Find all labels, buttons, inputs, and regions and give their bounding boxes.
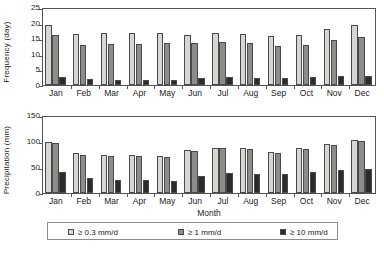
frequency-bar [87,79,93,85]
frequency-x-tick-label: Oct [300,88,313,98]
precipitation-y-tick-mark [39,169,43,170]
precipitation-bar [59,172,65,193]
frequency-bar [80,45,86,85]
frequency-bar [101,33,107,85]
precipitation-bar [108,156,114,193]
legend-item-label: ≥ 1 mm/d [188,228,221,237]
precipitation-bar [310,172,316,193]
frequency-bars [43,9,375,85]
frequency-y-tick-mark [39,86,43,87]
frequency-x-tick-label: Mar [104,88,119,98]
frequency-bar [164,43,170,85]
frequency-bar [115,80,121,85]
precipitation-bar [212,148,218,193]
frequency-bar [108,44,114,85]
precipitation-x-tick-label: Sep [271,196,286,206]
frequency-bar [351,25,357,85]
precipitation-y-tick-mark [39,117,43,118]
frequency-bar-group [321,9,349,85]
frequency-bar [324,29,330,85]
frequency-bar [282,78,288,85]
precipitation-bar [351,140,357,193]
precipitation-y-tick: 50 [31,164,40,172]
legend-swatch-icon [178,229,184,235]
precipitation-bar [282,174,288,193]
precipitation-bar-group [99,117,127,193]
precipitation-bar-group [182,117,210,193]
precipitation-y-tick-mark [39,194,43,195]
frequency-bar-group [182,9,210,85]
frequency-bar-group [238,9,266,85]
frequency-bar-group [294,9,322,85]
precipitation-x-tick-label: Feb [76,196,91,206]
frequency-bar [247,43,253,85]
frequency-bar-group [266,9,294,85]
frequency-bar [275,46,281,85]
precipitation-bar-group [71,117,99,193]
precipitation-bar [338,170,344,193]
frequency-y-tick: 15 [31,35,40,43]
precipitation-x-tick-label: Aug [243,196,258,206]
frequency-y-tick: 25 [31,4,40,12]
precipitation-bar-group [294,117,322,193]
frequency-bar-group [127,9,155,85]
frequency-bar [358,37,364,85]
precipitation-bar [101,155,107,193]
precipitation-bar [164,157,170,193]
precipitation-bar [45,142,51,193]
frequency-bar [240,34,246,85]
precipitation-bar [171,181,177,193]
precipitation-bar [331,145,337,193]
frequency-bar [171,80,177,85]
frequency-bar [129,33,135,85]
precipitation-bar [254,174,260,193]
precipitation-plot-area [42,116,376,194]
frequency-y-tick-mark [39,9,43,10]
precipitation-bars [43,117,375,193]
precipitation-y-tick-labels: 050100150 [14,116,40,194]
precipitation-x-tick-label: Jul [217,196,228,206]
precipitation-bar [184,150,190,193]
frequency-bar [338,76,344,85]
precipitation-x-tick-label: Nov [327,196,342,206]
frequency-bar-group [99,9,127,85]
frequency-bar [331,40,337,85]
precipitation-x-tick-label: Jun [188,196,202,206]
chart-legend: ≥ 0.3 mm/d≥ 1 mm/d≥ 10 mm/d [47,222,338,240]
frequency-bar [254,78,260,85]
frequency-bar [303,45,309,85]
precipitation-bar-group [349,117,377,193]
frequency-bar [191,43,197,85]
frequency-bar [296,35,302,85]
legend-item-label: ≥ 10 mm/d [290,228,328,237]
precipitation-y-tick-mark [39,143,43,144]
precipitation-bar [198,176,204,193]
precipitation-bar [219,148,225,193]
frequency-x-tick-label: Feb [76,88,91,98]
precipitation-bar-group [238,117,266,193]
frequency-y-tick: 10 [31,51,40,59]
frequency-y-tick: 5 [36,66,40,74]
precipitation-bar [115,180,121,193]
frequency-bar [226,77,232,85]
legend-item: ≥ 0.3 mm/d [68,226,118,238]
legend-swatch-icon [280,229,286,235]
frequency-x-tick-label: Jun [188,88,202,98]
frequency-bar [212,33,218,85]
frequency-x-tick-labels: JanFebMarAprMayJunJulAugSepOctNovDec [42,88,376,102]
frequency-bar [143,80,149,85]
frequency-y-tick: 20 [31,20,40,28]
frequency-y-tick-mark [39,71,43,72]
frequency-bar-group [71,9,99,85]
precipitation-bar-group [321,117,349,193]
frequency-y-tick-mark [39,40,43,41]
precipitation-x-tick-label: Mar [104,196,119,206]
legend-item: ≥ 10 mm/d [280,226,328,238]
frequency-x-tick-label: Aug [243,88,258,98]
frequency-x-tick-label: May [159,88,175,98]
frequency-bar-group [43,9,71,85]
x-axis-title: Month [42,208,376,218]
precipitation-bar [87,178,93,193]
frequency-bar [157,33,163,85]
frequency-bar [59,77,65,85]
